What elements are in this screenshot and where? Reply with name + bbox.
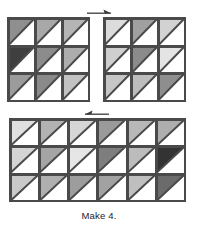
triangle-shape (11, 120, 38, 145)
hst-unit (39, 174, 68, 201)
hst-unit (10, 119, 39, 146)
hst-unit (131, 46, 158, 74)
hst-unit (10, 174, 39, 201)
triangle-shape (132, 74, 157, 100)
block-top-right-grid (104, 18, 185, 101)
triangle-shape (157, 147, 184, 172)
triangle-shape (36, 47, 61, 73)
triangle-shape (40, 120, 67, 145)
triangle-shape (9, 74, 34, 100)
triangle-shape (63, 74, 88, 100)
hst-unit (39, 146, 68, 173)
hst-unit (127, 146, 156, 173)
hst-unit (97, 119, 126, 146)
triangle-shape (105, 74, 130, 100)
hst-unit (104, 73, 131, 101)
hst-unit (68, 174, 97, 201)
hst-unit (156, 174, 185, 201)
triangle-shape (105, 19, 130, 45)
hst-unit (68, 146, 97, 173)
triangle-shape (9, 47, 34, 73)
hst-unit (156, 146, 185, 173)
triangle-shape (40, 175, 67, 200)
triangle-shape (69, 175, 96, 200)
hst-unit (127, 119, 156, 146)
block-top-right (103, 17, 186, 102)
arrow-top (86, 7, 112, 15)
triangle-shape (40, 147, 67, 172)
hst-unit (35, 73, 62, 101)
hst-unit (62, 18, 89, 46)
hst-unit (158, 18, 185, 46)
hst-unit (127, 174, 156, 201)
arrow-middle (84, 108, 110, 116)
hst-unit (131, 73, 158, 101)
hst-unit (35, 46, 62, 74)
hst-unit (104, 46, 131, 74)
hst-unit (8, 73, 35, 101)
block-bottom (9, 118, 186, 202)
triangle-shape (157, 120, 184, 145)
hst-unit (131, 18, 158, 46)
hst-unit (68, 119, 97, 146)
block-bottom-grid (10, 119, 185, 201)
hst-unit (62, 46, 89, 74)
triangle-shape (159, 19, 184, 45)
triangle-shape (69, 120, 96, 145)
hst-unit (97, 146, 126, 173)
hst-unit (10, 146, 39, 173)
triangle-shape (128, 175, 155, 200)
triangle-shape (98, 120, 125, 145)
block-top-left-grid (8, 18, 89, 101)
triangle-shape (36, 19, 61, 45)
triangle-shape (105, 47, 130, 73)
triangle-shape (128, 120, 155, 145)
triangle-shape (9, 19, 34, 45)
triangle-shape (98, 175, 125, 200)
hst-unit (158, 46, 185, 74)
triangle-shape (69, 147, 96, 172)
hst-unit (39, 119, 68, 146)
figure-canvas: Make 4. (0, 0, 198, 231)
triangle-shape (11, 147, 38, 172)
triangle-shape (159, 74, 184, 100)
hst-unit (97, 174, 126, 201)
hst-unit (35, 18, 62, 46)
triangle-shape (132, 19, 157, 45)
triangle-shape (98, 147, 125, 172)
hst-unit (8, 46, 35, 74)
figure-caption: Make 4. (0, 210, 198, 221)
triangle-shape (11, 175, 38, 200)
hst-unit (156, 119, 185, 146)
hst-unit (104, 18, 131, 46)
triangle-shape (159, 47, 184, 73)
triangle-shape (36, 74, 61, 100)
block-top-left (7, 17, 90, 102)
hst-unit (62, 73, 89, 101)
triangle-shape (63, 47, 88, 73)
hst-unit (158, 73, 185, 101)
hst-unit (8, 18, 35, 46)
triangle-shape (128, 147, 155, 172)
triangle-shape (63, 19, 88, 45)
triangle-shape (157, 175, 184, 200)
triangle-shape (132, 47, 157, 73)
